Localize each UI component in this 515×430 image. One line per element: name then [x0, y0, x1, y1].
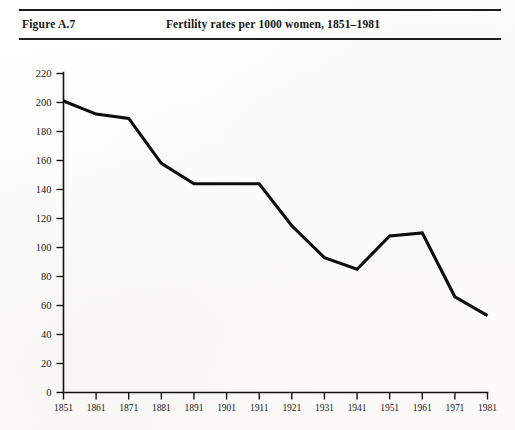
- x-tick-label: 1931: [315, 402, 334, 413]
- x-tick-label: 1911: [250, 402, 269, 413]
- y-axis-group: 020406080100120140160180200220: [36, 68, 64, 398]
- y-tick-label: 100: [36, 242, 52, 253]
- x-tick-label: 1971: [445, 402, 464, 413]
- y-tick-label: 40: [41, 329, 52, 340]
- x-tick-label: 1861: [87, 402, 106, 413]
- y-tick-label: 0: [46, 387, 51, 398]
- figure-header: Figure A.7 Fertility rates per 1000 wome…: [19, 9, 501, 40]
- x-tick-label: 1941: [348, 402, 367, 413]
- y-tick-label: 140: [36, 184, 52, 195]
- y-tick-label: 200: [36, 97, 52, 108]
- x-tick-label: 1951: [380, 402, 399, 413]
- fertility-line-chart: 020406080100120140160180200220 185118611…: [0, 52, 515, 430]
- chart-container: 020406080100120140160180200220 185118611…: [0, 52, 515, 430]
- x-tick-label: 1871: [119, 402, 138, 413]
- series-group: [64, 101, 488, 316]
- y-tick-label: 20: [41, 358, 52, 369]
- header-rule-bottom: [19, 38, 501, 40]
- x-axis-group: 1851186118711881189119011911192119311941…: [54, 393, 497, 413]
- y-tick-label: 180: [36, 126, 52, 137]
- y-tick-label: 80: [41, 271, 52, 282]
- figure-title: Fertility rates per 1000 women, 1851–198…: [19, 11, 501, 30]
- x-axis-ticks: 1851186118711881189119011911192119311941…: [54, 393, 497, 413]
- y-axis-ticks: 020406080100120140160180200220: [36, 68, 64, 398]
- x-tick-label: 1981: [478, 402, 497, 413]
- x-tick-label: 1961: [413, 402, 432, 413]
- series-line-fertility-rate: [64, 101, 488, 316]
- y-tick-label: 220: [36, 68, 52, 79]
- header-row: Figure A.7 Fertility rates per 1000 wome…: [19, 11, 501, 38]
- x-tick-label: 1881: [152, 402, 171, 413]
- x-tick-label: 1901: [217, 402, 236, 413]
- y-tick-label: 160: [36, 155, 52, 166]
- y-tick-label: 120: [36, 213, 52, 224]
- x-tick-label: 1891: [185, 402, 204, 413]
- x-tick-label: 1851: [54, 402, 73, 413]
- x-tick-label: 1921: [282, 402, 301, 413]
- y-tick-label: 60: [41, 300, 52, 311]
